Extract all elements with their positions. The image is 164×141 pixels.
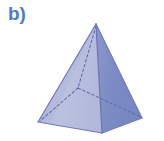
square-pyramid-illustration bbox=[0, 0, 164, 141]
face-front-right bbox=[96, 24, 142, 133]
figure-container: b) bbox=[0, 0, 164, 141]
